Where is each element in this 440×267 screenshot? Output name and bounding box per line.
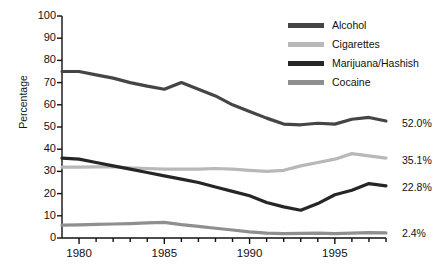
legend-item[interactable]: Alcohol <box>288 17 419 34</box>
legend-item[interactable]: Cocaine <box>288 74 419 91</box>
series-end-label: 22.8% <box>402 181 432 193</box>
legend-item[interactable]: Marijuana/Hashish <box>288 55 419 72</box>
legend-label: Alcohol <box>332 20 366 31</box>
legend-label: Marijuana/Hashish <box>332 58 419 69</box>
legend-item[interactable]: Cigarettes <box>288 36 419 53</box>
series-end-label: 52.0% <box>402 117 432 129</box>
legend-label: Cocaine <box>332 77 371 88</box>
line-chart: Percentage 0102030405060708090100 198019… <box>0 0 440 267</box>
legend-label: Cigarettes <box>332 39 380 50</box>
x-tick-label: 1990 <box>237 247 263 259</box>
legend-swatch-icon <box>288 80 324 85</box>
legend: AlcoholCigarettesMarijuana/HashishCocain… <box>288 17 419 93</box>
legend-swatch-icon <box>288 61 324 66</box>
x-tick-label: 1995 <box>322 247 348 259</box>
series-end-label: 2.4% <box>402 227 426 239</box>
legend-swatch-icon <box>288 42 324 47</box>
x-tick-label: 1985 <box>152 247 178 259</box>
legend-swatch-icon <box>288 23 324 28</box>
series-end-label: 35.1% <box>402 154 432 166</box>
x-tick-label: 1980 <box>66 247 92 259</box>
